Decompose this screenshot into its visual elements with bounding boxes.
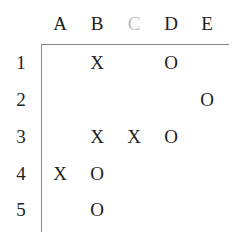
o-mark: O [90, 200, 104, 219]
row-header-2: 2 [16, 90, 26, 109]
vertical-axis-line [41, 44, 42, 232]
o-mark: O [200, 90, 214, 109]
row-header-3: 3 [16, 127, 26, 146]
x-mark: X [53, 164, 67, 183]
o-mark: O [90, 164, 104, 183]
column-header-e: E [201, 14, 213, 33]
column-header-b: B [91, 14, 104, 33]
x-mark: X [127, 127, 141, 146]
o-mark: O [164, 53, 178, 72]
o-mark: O [164, 127, 178, 146]
row-header-4: 4 [16, 164, 26, 183]
horizontal-axis-line [41, 44, 229, 45]
x-mark: X [90, 127, 104, 146]
column-header-c: C [128, 14, 141, 33]
row-header-5: 5 [16, 200, 26, 219]
column-header-d: D [164, 14, 178, 33]
column-header-a: A [53, 14, 67, 33]
row-header-1: 1 [16, 53, 26, 72]
x-mark: X [90, 53, 104, 72]
